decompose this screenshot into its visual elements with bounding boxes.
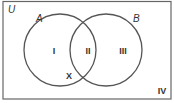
universe-label: U [8, 4, 16, 15]
region-iv-label: IV [158, 86, 167, 96]
region-ii-label: II [85, 46, 90, 56]
region-iii-label: III [119, 46, 127, 56]
set-b-label: B [133, 13, 140, 24]
venn-diagram: U A B I II III IV X [0, 0, 174, 103]
set-a-label: A [35, 13, 43, 24]
marker-x-label: X [66, 71, 72, 81]
set-b-circle [70, 14, 142, 86]
region-i-label: I [53, 46, 56, 56]
